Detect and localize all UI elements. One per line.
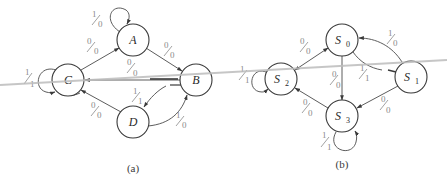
edge-S0-S1 (353, 52, 382, 70)
label-S3-S3: 1 1 (321, 130, 332, 152)
svg-text:0: 0 (97, 110, 102, 120)
label-S1-S3: 0 0 (380, 94, 391, 115)
edge-A-B (146, 48, 182, 71)
svg-text:0: 0 (91, 100, 96, 110)
label-D-C: 0 0 (91, 100, 102, 120)
svg-text:1: 1 (176, 110, 181, 120)
label-S2-S2: 1 1 (239, 64, 250, 85)
svg-text:1: 1 (25, 67, 30, 77)
svg-text:0: 0 (308, 108, 313, 118)
edge-S1-S3 (357, 86, 398, 108)
edge-S3-S3 (334, 131, 357, 151)
state-S0-sub: 0 (346, 40, 350, 49)
label-B-C: 0 0 (127, 57, 138, 78)
state-A: A (117, 24, 149, 56)
edge-S0-S1-head (388, 70, 396, 72)
state-A-label: A (128, 33, 137, 47)
state-D: D (117, 106, 149, 138)
svg-text:0: 0 (98, 19, 103, 29)
label-A-A: 1 0 (92, 9, 103, 29)
svg-text:0: 0 (94, 46, 99, 56)
svg-text:1: 1 (133, 86, 138, 96)
svg-text:1: 1 (365, 73, 370, 83)
svg-text:0: 0 (381, 94, 386, 104)
svg-text:0: 0 (164, 40, 169, 50)
label-A-B: 0 0 (164, 40, 175, 60)
state-S3-sub: 3 (346, 116, 350, 125)
svg-text:1: 1 (245, 75, 250, 85)
label-C-C: 1 1 (24, 67, 35, 89)
svg-text:0: 0 (306, 46, 311, 56)
label-S1-S0: 1 0 (387, 28, 398, 48)
state-S3-base: S (335, 109, 341, 123)
state-S0: S 0 (326, 24, 358, 56)
edge-S3-S2 (295, 88, 328, 108)
svg-text:0: 0 (386, 105, 391, 115)
svg-text:0: 0 (393, 38, 398, 48)
diagram-a: A B C D 1 0 0 0 0 0 0 (24, 8, 212, 175)
svg-text:0: 0 (303, 97, 308, 107)
label-D-B: 1 0 (176, 110, 187, 130)
state-S1: S 1 (395, 61, 427, 93)
state-diagrams: A B C D 1 0 0 0 0 0 0 (0, 0, 447, 184)
edge-B-D (144, 86, 166, 107)
svg-text:0: 0 (336, 80, 341, 90)
edge-C-A (81, 48, 119, 70)
state-S3: S 3 (326, 100, 358, 132)
label-S2-S0: 0 0 (300, 36, 311, 56)
svg-text:1: 1 (92, 9, 97, 19)
state-S1-base: S (404, 70, 410, 84)
label-S0-S3: 0 0 (330, 69, 341, 90)
state-S0-base: S (335, 33, 341, 47)
edge-D-C (81, 90, 121, 112)
state-S2-sub: 2 (285, 79, 289, 88)
svg-text:1: 1 (388, 28, 393, 38)
svg-text:1: 1 (327, 142, 332, 152)
svg-text:0: 0 (170, 50, 175, 60)
state-D-label: D (128, 115, 138, 129)
svg-text:0: 0 (300, 36, 305, 46)
state-B: B (180, 64, 212, 96)
state-S1-sub: 1 (415, 77, 419, 86)
diagram-b: S 0 S 1 S 2 S 3 0 0 1 0 1 (239, 24, 427, 171)
caption-b: (b) (336, 158, 349, 171)
label-B-D: 1 1 (132, 86, 143, 106)
svg-text:1: 1 (138, 96, 143, 106)
label-S0-S1: 1 1 (359, 63, 370, 83)
svg-text:0: 0 (127, 57, 132, 67)
caption-a: (a) (127, 162, 140, 175)
svg-text:0: 0 (87, 36, 92, 46)
state-S2-base: S (274, 72, 280, 86)
label-C-A: 0 0 (87, 36, 99, 56)
svg-text:0: 0 (182, 120, 187, 130)
svg-text:1: 1 (322, 130, 327, 140)
label-S3-S2: 0 0 (302, 97, 313, 118)
